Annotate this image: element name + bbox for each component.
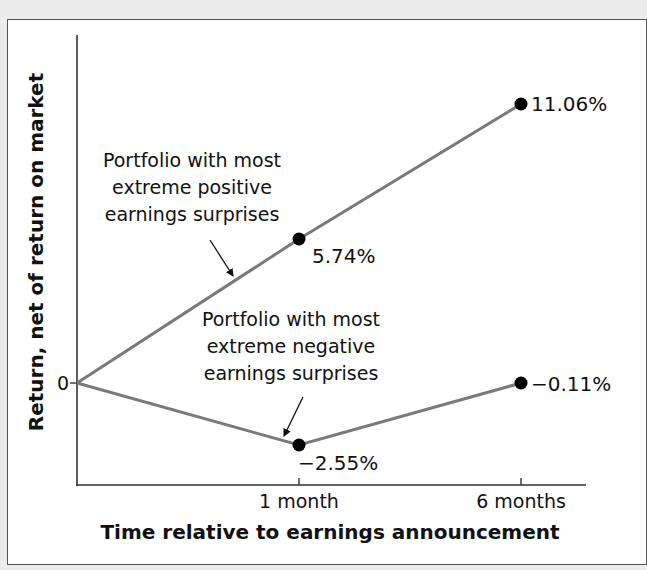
data-point-negative-1-month	[293, 439, 306, 452]
x-tick-label-6-months: 6 months	[476, 490, 566, 512]
annotation-negative-line-2: extreme negative	[207, 335, 375, 357]
y-axis-title: Return, net of return on market	[24, 72, 48, 431]
y-tick-label-zero: 0	[57, 372, 69, 394]
value-label-minus-0-11: −0.11%	[531, 372, 611, 396]
value-label-11-06: 11.06%	[531, 92, 607, 116]
arrow-positive-annotation	[210, 240, 233, 276]
value-label-minus-2-55: −2.55%	[298, 451, 378, 475]
annotation-positive-line-2: extreme positive	[112, 176, 272, 198]
annotation-positive-line-3: earnings surprises	[105, 203, 280, 225]
annotation-negative-line-1: Portfolio with most	[202, 308, 380, 330]
value-label-5-74: 5.74%	[312, 244, 376, 268]
x-tick-label-1-month: 1 month	[259, 490, 339, 512]
x-axis-title: Time relative to earnings announcement	[100, 520, 560, 544]
annotation-positive-line-1: Portfolio with most	[103, 149, 281, 171]
data-point-positive-6-months	[515, 98, 528, 111]
data-point-positive-1-month	[293, 233, 306, 246]
data-point-negative-6-months	[515, 377, 528, 390]
annotation-negative-line-3: earnings surprises	[204, 362, 379, 384]
series-negative-line	[77, 383, 521, 445]
arrow-negative-annotation	[284, 397, 303, 436]
